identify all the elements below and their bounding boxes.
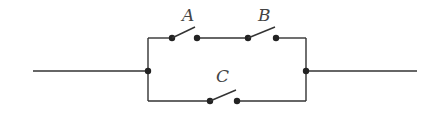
right-junction-node	[303, 68, 309, 74]
switch-b-label: B	[257, 5, 271, 25]
switch-b-lever	[248, 27, 275, 38]
switch-a-right-contact	[194, 35, 200, 41]
left-junction-node	[145, 68, 151, 74]
switch-b-right-contact	[273, 35, 279, 41]
switch-a	[169, 27, 200, 41]
circuit-diagram: A B C	[0, 0, 442, 113]
switch-a-lever	[172, 27, 195, 38]
switch-c-right-contact	[234, 98, 240, 104]
switch-c-label: C	[216, 66, 229, 86]
switch-b	[245, 27, 279, 41]
switch-c	[207, 90, 240, 104]
switch-c-lever	[210, 90, 236, 101]
switch-a-label: A	[180, 5, 194, 25]
